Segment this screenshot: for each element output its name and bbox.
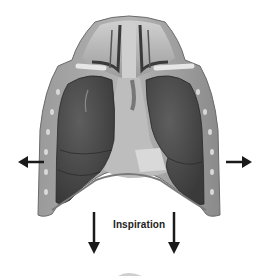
right-lung bbox=[56, 76, 115, 204]
arrow-down-right-icon bbox=[168, 212, 180, 254]
inspiration-label: Inspiration bbox=[113, 219, 165, 230]
arrow-down-left-icon bbox=[88, 212, 100, 254]
thorax-illustration bbox=[0, 0, 256, 276]
trachea bbox=[122, 22, 136, 82]
thorax-diagram: Inspiration bbox=[0, 0, 256, 276]
arrow-right-icon bbox=[226, 156, 252, 168]
